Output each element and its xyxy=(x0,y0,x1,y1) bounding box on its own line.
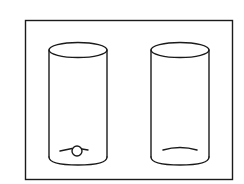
right-cylinder-bottom xyxy=(151,157,209,165)
sphere-object xyxy=(60,146,88,156)
sphere-rod-right xyxy=(82,149,88,150)
left-cylinder xyxy=(49,43,107,166)
left-cylinder-top xyxy=(49,43,107,58)
right-cylinder xyxy=(151,43,209,166)
diagram-svg xyxy=(0,0,244,184)
right-cylinder-top xyxy=(151,43,209,58)
diagram-canvas xyxy=(0,0,244,184)
sphere-icon xyxy=(72,146,82,156)
sphere-rod xyxy=(60,149,72,152)
curved-line-object xyxy=(163,148,197,151)
left-cylinder-bottom xyxy=(49,157,107,165)
